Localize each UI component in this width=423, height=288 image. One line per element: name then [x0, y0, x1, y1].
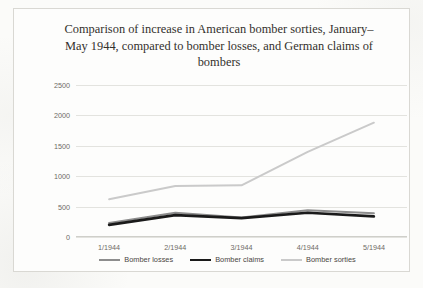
x-axis-tick-label: 1/1944 — [98, 243, 120, 252]
series-line — [109, 123, 374, 200]
x-axis-tick-label: 3/1944 — [231, 243, 253, 252]
legend-swatch — [99, 259, 120, 261]
gridline — [76, 237, 407, 238]
x-axis-tick-label: 4/1944 — [297, 243, 319, 252]
chart-legend: Bomber lossesBomber claimsBomber sorties — [62, 255, 393, 264]
y-axis-tick-label: 2000 — [54, 111, 70, 120]
legend-swatch — [190, 259, 211, 261]
y-axis-tick-label: 500 — [58, 202, 70, 211]
chart-title: Comparison of increase in American bombe… — [54, 21, 384, 71]
chart-frame: Comparison of increase in American bombe… — [13, 8, 410, 272]
legend-label: Bomber losses — [124, 255, 173, 264]
legend-item: Bomber claims — [190, 255, 264, 264]
legend-label: Bomber sorties — [306, 255, 356, 264]
y-axis-tick-label: 0 — [66, 233, 70, 242]
plot-area: 05001000150020002500 1/19442/19443/19444… — [76, 85, 407, 237]
legend-item: Bomber losses — [99, 255, 173, 264]
series-line — [109, 213, 374, 225]
series-lines — [76, 85, 407, 237]
legend-label: Bomber claims — [215, 255, 264, 264]
x-axis-tick-label: 2/1944 — [164, 243, 186, 252]
y-axis-tick-label: 1500 — [54, 141, 70, 150]
x-axis-tick-label: 5/1944 — [363, 243, 385, 252]
legend-item: Bomber sorties — [281, 255, 356, 264]
y-axis-tick-label: 1000 — [54, 172, 70, 181]
legend-swatch — [281, 259, 302, 261]
series-line — [109, 210, 374, 223]
y-axis-tick-label: 2500 — [54, 81, 70, 90]
